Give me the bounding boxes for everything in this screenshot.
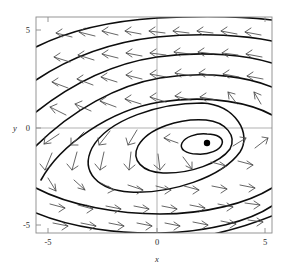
phase-portrait-figure: 5 0 -5 -5 0 5 x y	[0, 0, 298, 277]
fixed-point-center-marker	[204, 140, 210, 146]
y-tick-label-zero: 0	[26, 123, 30, 133]
x-tick-label-pos5: 5	[263, 237, 267, 247]
plot-area-background	[36, 17, 272, 233]
x-tick-label-neg5: -5	[44, 237, 51, 247]
y-tick-label-neg5: -5	[23, 220, 30, 230]
phase-portrait-svg: 5 0 -5 -5 0 5 x y	[0, 0, 298, 277]
x-axis-title: x	[154, 254, 159, 264]
x-tick-label-zero: 0	[155, 237, 159, 247]
y-axis-title: y	[12, 123, 17, 133]
y-tick-label-pos5: 5	[26, 25, 30, 35]
